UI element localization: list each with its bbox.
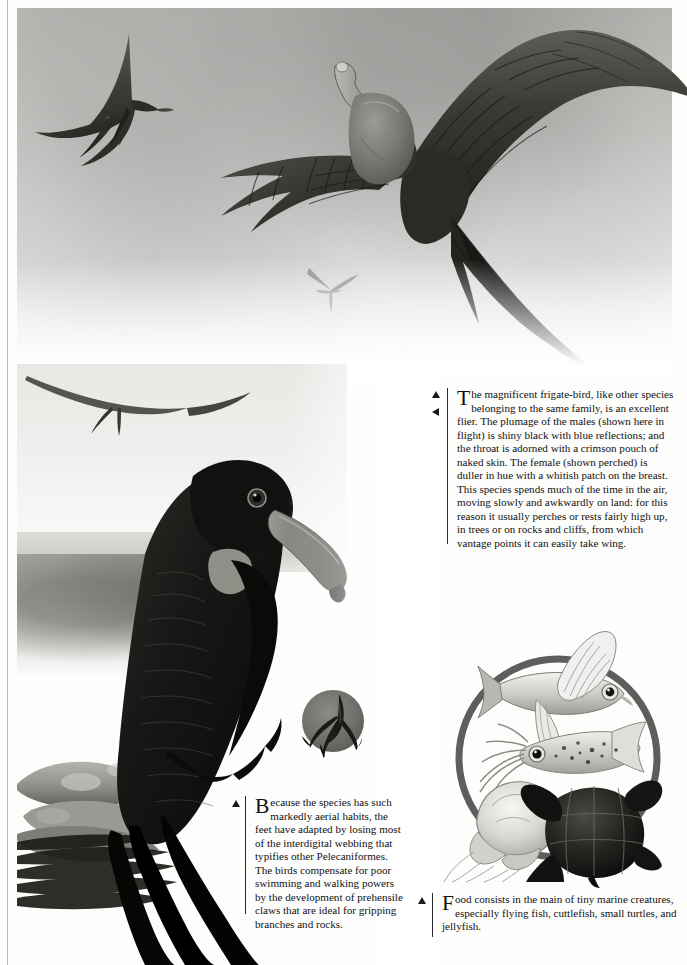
dropcap: B bbox=[255, 797, 270, 815]
caption-main-text: The magnificent frigate-bird, like other… bbox=[457, 388, 675, 551]
dropcap: T bbox=[457, 389, 471, 407]
caption-main-body: he magnificent frigate-bird, like other … bbox=[457, 388, 673, 549]
caption-rule bbox=[432, 893, 433, 937]
caption-main: The magnificent frigate-bird, like other… bbox=[432, 388, 677, 551]
caption-rule bbox=[447, 388, 448, 544]
illustrated-page: The magnificent frigate-bird, like other… bbox=[0, 0, 687, 965]
caption-feet: Because the species has such markedly ae… bbox=[232, 796, 412, 931]
caption-food-body: ood consists in the main of tiny marine … bbox=[442, 893, 677, 932]
frigate-bird-upper-left bbox=[35, 34, 174, 166]
foot-detail-circle bbox=[299, 688, 365, 754]
triangle-up-icon bbox=[418, 897, 426, 904]
caption-feet-body: ecause the species has such markedly aer… bbox=[255, 796, 403, 930]
sky-illustration bbox=[17, 8, 672, 380]
triangle-up-icon bbox=[232, 800, 240, 807]
sky-bottom-fade bbox=[17, 260, 672, 380]
frigate-bird-gliding-overhead bbox=[25, 376, 251, 436]
triangle-left-icon bbox=[432, 408, 439, 416]
caption-food-text: Food consists in the main of tiny marine… bbox=[442, 893, 678, 934]
caption-rule bbox=[245, 796, 246, 914]
dropcap: F bbox=[442, 894, 455, 912]
caption-food: Food consists in the main of tiny marine… bbox=[418, 893, 680, 934]
caption-feet-text: Because the species has such markedly ae… bbox=[255, 796, 407, 931]
food-detail-circle bbox=[452, 626, 664, 882]
margin-rule bbox=[7, 0, 8, 965]
triangle-up-icon bbox=[432, 391, 440, 398]
throat-pouch bbox=[349, 93, 415, 185]
